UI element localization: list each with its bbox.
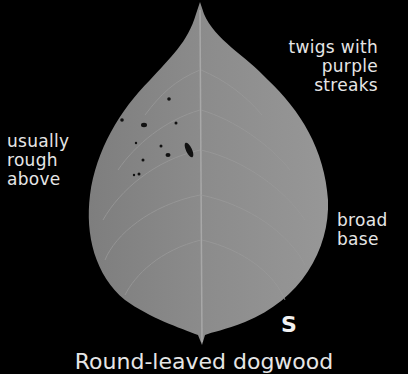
annotation-line: streaks	[259, 76, 378, 95]
annotation-line: broad	[337, 211, 388, 230]
annotation-rough: usually rough above	[7, 132, 69, 189]
annotation-line: above	[7, 170, 69, 189]
annotation-line: twigs with	[259, 38, 378, 57]
caption: Round-leaved dogwood	[0, 349, 408, 374]
annotation-line: usually	[7, 132, 69, 151]
annotation-line: purple	[259, 57, 378, 76]
annotation-broad-base: broad base	[337, 211, 388, 249]
annotation-line: rough	[7, 151, 69, 170]
annotation-twigs: twigs with purple streaks	[259, 38, 378, 95]
marker-label: S	[281, 312, 297, 337]
annotation-line: base	[337, 230, 388, 249]
